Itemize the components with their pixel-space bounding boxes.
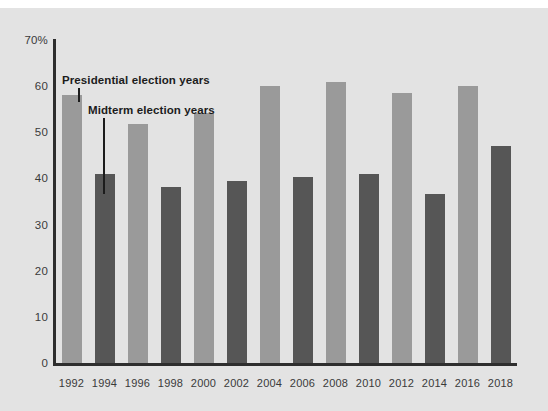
- bar-2006[interactable]: [293, 177, 313, 363]
- bar-2014[interactable]: [425, 194, 445, 363]
- chart-panel: 010203040506070% 19921994199619982000200…: [0, 8, 548, 411]
- y-axis-tick-label: 40: [35, 172, 48, 184]
- x-axis-tick-label: 2012: [389, 377, 414, 389]
- x-axis-tick-label: 1992: [59, 377, 84, 389]
- bar-2008[interactable]: [326, 82, 346, 363]
- x-axis-line: [53, 363, 517, 366]
- x-axis-tick-label: 2002: [224, 377, 249, 389]
- bar-slot: 1992: [55, 40, 88, 363]
- bar-1992[interactable]: [62, 95, 82, 363]
- chart-screenshot: 010203040506070% 19921994199619982000200…: [0, 0, 548, 411]
- bar-slot: 2002: [220, 40, 253, 363]
- bar-slot: 2000: [187, 40, 220, 363]
- x-axis-tick-label: 2016: [455, 377, 480, 389]
- x-axis-tick-label: 2008: [323, 377, 348, 389]
- bar-slot: 2014: [418, 40, 451, 363]
- x-axis-tick-label: 1996: [125, 377, 150, 389]
- bar-slot: 2004: [253, 40, 286, 363]
- x-axis-tick-label: 2004: [257, 377, 282, 389]
- bar-2002[interactable]: [227, 181, 247, 363]
- y-axis-tick-label: 70%: [24, 34, 48, 46]
- x-axis-tick-label: 2010: [356, 377, 381, 389]
- bar-2016[interactable]: [458, 86, 478, 363]
- bar-1996[interactable]: [128, 124, 148, 363]
- x-axis-tick-label: 2000: [191, 377, 216, 389]
- annotation-midterm-label: Midterm election years: [88, 104, 215, 116]
- bar-slot: 2008: [319, 40, 352, 363]
- bar-slot: 2016: [451, 40, 484, 363]
- y-axis-tick-label: 30: [35, 219, 48, 231]
- x-axis-tick-label: 2018: [488, 377, 513, 389]
- annotation-presidential-label: Presidential election years: [62, 74, 210, 86]
- bar-2012[interactable]: [392, 93, 412, 363]
- bar-2010[interactable]: [359, 174, 379, 363]
- bar-slot: 1994: [88, 40, 121, 363]
- bar-slot: 2006: [286, 40, 319, 363]
- x-axis-tick-label: 2014: [422, 377, 447, 389]
- x-axis-tick-label: 2006: [290, 377, 315, 389]
- bar-1998[interactable]: [161, 187, 181, 363]
- bar-2000[interactable]: [194, 113, 214, 363]
- bar-slot: 2010: [352, 40, 385, 363]
- bar-slot: 1998: [154, 40, 187, 363]
- y-axis-tick-label: 20: [35, 265, 48, 277]
- y-axis-tick-label: 60: [35, 80, 48, 92]
- annotation-presidential-leader-line: [78, 88, 80, 102]
- y-axis-ticks: 010203040506070%: [0, 8, 48, 411]
- x-axis-tick-label: 1994: [92, 377, 117, 389]
- y-axis-tick-label: 0: [41, 357, 48, 369]
- y-axis-tick-label: 10: [35, 311, 48, 323]
- y-axis-tick-label: 50: [35, 126, 48, 138]
- annotation-midterm-leader-line: [103, 118, 105, 194]
- bar-2018[interactable]: [491, 146, 511, 363]
- bar-group: 1992199419961998200020022004200620082010…: [55, 40, 517, 363]
- x-axis-tick-label: 1998: [158, 377, 183, 389]
- bar-slot: 2018: [484, 40, 517, 363]
- bar-slot: 2012: [385, 40, 418, 363]
- bar-1994[interactable]: [95, 174, 115, 363]
- plot-area: 1992199419961998200020022004200620082010…: [55, 40, 517, 363]
- bar-2004[interactable]: [260, 86, 280, 363]
- bar-slot: 1996: [121, 40, 154, 363]
